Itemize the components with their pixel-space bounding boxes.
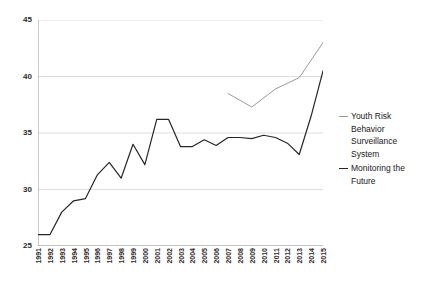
chart-legend: Youth Risk Behavior Surveillance SystemM… [339,110,425,190]
gridlines [38,20,323,246]
y-tick-label: 25 [0,242,32,250]
x-tick-label: 2006 [213,248,220,264]
x-tick-label: 2009 [249,248,256,264]
line-chart: 2530354045 19911992199319941995199619971… [0,0,427,288]
x-tick-label: 2013 [296,248,303,264]
x-tick-label: 2011 [273,248,280,263]
x-tick-label: 2001 [154,248,161,264]
legend-entry: Youth Risk Behavior Surveillance System [339,110,425,160]
series-line-2 [228,43,323,107]
y-tick-label: 45 [0,16,32,24]
x-tick-label: 1999 [130,248,137,264]
x-tick-label: 2014 [308,248,315,264]
x-tick-label: 1998 [118,248,125,264]
legend-label: Youth Risk Behavior Surveillance System [351,110,425,160]
legend-label: Monitoring the Future [351,162,425,187]
x-axis: 1991199219931994199519961997199819992000… [38,248,328,288]
x-tick-label: 2005 [201,248,208,264]
x-tick-label: 2008 [237,248,244,264]
x-tick-label: 2007 [225,248,232,264]
x-tick-label: 1993 [59,248,66,264]
x-tick-label: 2004 [189,248,196,264]
y-axis: 2530354045 [0,0,36,288]
x-tick-label: 2003 [178,248,185,264]
x-tick-label: 2000 [142,248,149,264]
legend-entry: Monitoring the Future [339,162,425,187]
series-line-1 [38,71,323,235]
plot-svg [38,20,323,246]
y-tick-label: 30 [0,186,32,194]
x-tick-label: 1994 [71,248,78,264]
x-tick-label: 1991 [35,248,42,264]
x-tick-label: 1992 [47,248,54,264]
x-tick-label: 2010 [261,248,268,264]
legend-line-swatch [339,168,348,169]
x-tick-label: 2015 [320,248,327,264]
y-tick-label: 40 [0,73,32,81]
legend-line-swatch [339,116,348,117]
x-tick-label: 1997 [106,248,113,264]
x-tick-label: 2012 [284,248,291,264]
series-lines [38,43,323,235]
x-tick-label: 1996 [94,248,101,264]
x-tick-label: 1995 [83,248,90,264]
plot-area [38,20,323,246]
x-tick-label: 2002 [166,248,173,264]
y-tick-label: 35 [0,129,32,137]
